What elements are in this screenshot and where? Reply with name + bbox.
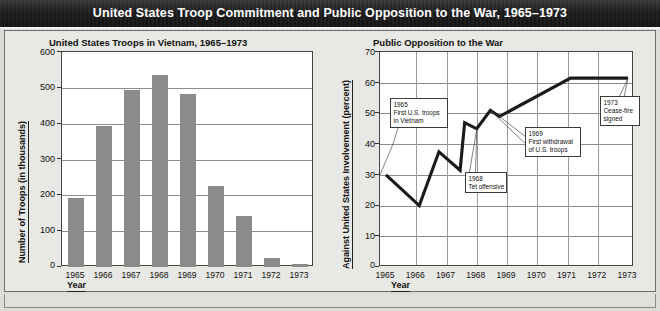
callout-1973: 1973 Cease-fire signed [600, 96, 640, 126]
bar-1966 [96, 126, 113, 267]
left-plot-area [61, 51, 313, 266]
right-x-label-1973: 1973 [613, 271, 641, 280]
left-chart-panel: United States Troops in Vietnam, 1965–19… [5, 31, 333, 293]
left-x-label-1969: 1969 [173, 271, 201, 280]
right-x-label-1970: 1970 [522, 271, 550, 280]
left-y-tick-300: 300 [25, 155, 55, 164]
bar-1971 [236, 216, 253, 267]
callout-1965: 1965 First U.S. troops in Vietnam [390, 98, 448, 128]
left-y-tick-200: 200 [25, 190, 55, 199]
right-y-tick-70: 70 [345, 48, 375, 57]
left-x-axis-title: Year [67, 281, 86, 292]
right-x-label-1969: 1969 [492, 271, 520, 280]
bottom-strip [4, 294, 656, 308]
right-x-label-1967: 1967 [432, 271, 460, 280]
line-series-svg [380, 52, 634, 267]
left-x-label-1968: 1968 [145, 271, 173, 280]
right-chart-panel: Public Opposition to the War Against Uni… [333, 31, 657, 293]
right-y-tick-20: 20 [345, 201, 375, 210]
right-y-tick-0: 0 [345, 261, 375, 270]
page-title: United States Troop Commitment and Publi… [93, 7, 567, 20]
right-y-tick-40: 40 [345, 140, 375, 149]
leader-line-0 [380, 144, 393, 175]
gridline [62, 88, 312, 89]
bar-1970 [208, 186, 225, 267]
left-x-label-1973: 1973 [285, 271, 313, 280]
right-x-label-1966: 1966 [401, 271, 429, 280]
left-x-label-1970: 1970 [201, 271, 229, 280]
right-x-axis-title: Year [391, 281, 410, 292]
left-x-label-1971: 1971 [229, 271, 257, 280]
bar-1972 [264, 258, 281, 267]
left-chart-title: United States Troops in Vietnam, 1965–19… [49, 37, 247, 48]
bar-1967 [124, 90, 141, 267]
callout-1968: 1968 Tet offensive [465, 172, 507, 193]
left-y-tick-600: 600 [25, 48, 55, 57]
leader-line-1 [393, 128, 398, 144]
right-chart-title: Public Opposition to the War [373, 37, 503, 48]
right-y-tick-30: 30 [345, 171, 375, 180]
bar-1965 [68, 198, 85, 267]
left-x-label-1967: 1967 [117, 271, 145, 280]
left-y-tick-500: 500 [25, 83, 55, 92]
bar-1969 [180, 94, 197, 267]
left-y-tick-400: 400 [25, 119, 55, 128]
left-x-label-1965: 1965 [61, 271, 89, 280]
right-x-label-1968: 1968 [462, 271, 490, 280]
infographic-page: United States Troop Commitment and Publi… [0, 0, 660, 311]
left-x-label-1972: 1972 [257, 271, 285, 280]
right-x-label-1971: 1971 [553, 271, 581, 280]
right-plot-area [379, 51, 633, 266]
charts-frame: United States Troops in Vietnam, 1965–19… [4, 30, 656, 292]
callout-1969: 1969 First withdrawal of U.S. troops [525, 127, 581, 157]
right-y-tick-50: 50 [345, 109, 375, 118]
left-y-tick-100: 100 [25, 226, 55, 235]
right-y-tick-10: 10 [345, 232, 375, 241]
right-x-label-1972: 1972 [583, 271, 611, 280]
right-x-label-1965: 1965 [371, 271, 399, 280]
bar-1968 [152, 75, 169, 267]
left-y-tick-0: 0 [25, 261, 55, 270]
right-y-tick-60: 60 [345, 79, 375, 88]
left-x-label-1966: 1966 [89, 271, 117, 280]
bar-1973 [292, 264, 309, 267]
header-bar: United States Troop Commitment and Publi… [0, 0, 660, 29]
